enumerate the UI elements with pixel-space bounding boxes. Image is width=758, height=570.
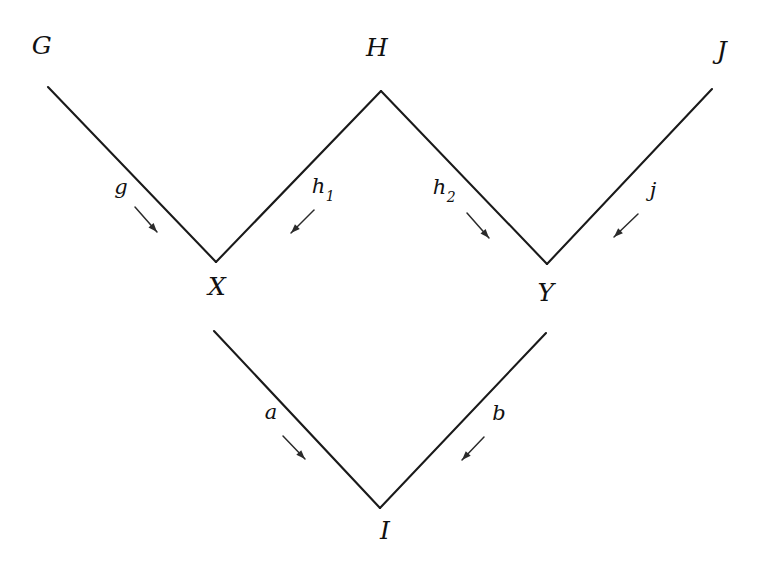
edge-j: [547, 89, 712, 264]
node-label-X: X: [208, 272, 226, 301]
edge-label-base-a: a: [265, 400, 278, 424]
node-label-H: H: [366, 33, 388, 62]
edge-label-base-j: j: [650, 178, 657, 202]
edge-label-base-h1: h: [312, 174, 326, 198]
edge-label-g: g: [114, 175, 127, 199]
edge-label-base-h2: h: [433, 175, 447, 199]
edge-g: [48, 87, 216, 262]
edge-label-b: b: [492, 401, 505, 425]
edge-h1: [216, 91, 381, 262]
edge-label-h1: h1: [312, 174, 334, 201]
edge-label-subscript-h1: 1: [326, 189, 335, 205]
direction-arrow-group: [135, 207, 638, 460]
node-label-J: J: [717, 36, 727, 65]
node-label-G: G: [32, 31, 52, 60]
diagram-vector-layer: [0, 0, 758, 570]
edge-a: [214, 331, 380, 508]
edge-label-j: j: [650, 178, 657, 202]
edge-label-a: a: [265, 400, 278, 424]
node-label-Y: Y: [538, 278, 555, 307]
edge-label-base-b: b: [492, 401, 505, 425]
edge-label-h2: h2: [433, 175, 455, 202]
edge-label-base-g: g: [114, 175, 127, 199]
node-label-I: I: [380, 516, 390, 545]
diagram-canvas-container: GHJXYI gh1h2jab: [0, 0, 758, 570]
edge-b: [380, 333, 546, 508]
edge-line-group: [48, 87, 712, 508]
edge-h2: [381, 91, 547, 264]
edge-label-subscript-h2: 2: [447, 190, 456, 206]
